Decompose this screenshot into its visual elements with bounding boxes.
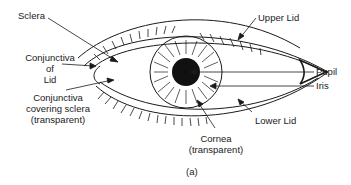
label-line: of [22,63,78,74]
label-line: Lid [22,74,78,85]
inner-canthus [94,66,100,84]
upper-lid-inner [95,43,318,68]
label-line: Conjunctiva [22,92,94,103]
label-line: covering sclera [22,103,94,114]
label-line: (transparent) [186,144,246,155]
label-lower-lid: Lower Lid [255,115,296,126]
label-iris: Iris [316,80,329,91]
label-pupil: Pupil [316,66,337,77]
upper-lid-fold [78,20,300,58]
figure-caption: (a) [186,166,198,177]
lower-lid-inner [100,78,318,109]
label-conjunctiva-sclera: Conjunctiva covering sclera (transparent… [22,92,94,125]
label-line: Cornea [186,133,246,144]
label-upper-lid: Upper Lid [258,12,299,23]
label-line: Conjunctiva [22,52,78,63]
label-sclera: Sclera [18,10,45,21]
label-cornea: Cornea (transparent) [186,133,246,155]
label-conjunctiva-lid: Conjunctiva of Lid [22,52,78,85]
label-line: (transparent) [22,114,94,125]
